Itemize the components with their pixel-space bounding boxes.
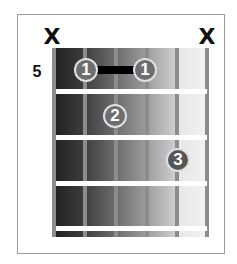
start-fret-label: 5 [33, 63, 42, 81]
finger-dot-3-string-2: 3 [166, 148, 190, 172]
mute-marker-string-1: X [199, 26, 216, 48]
barre-bar [96, 66, 136, 74]
mute-marker-string-6: X [44, 26, 61, 48]
finger-dot-1-string-2: 1 [133, 58, 157, 82]
fret-line-2 [56, 135, 207, 140]
fretboard-shading-light [176, 48, 207, 237]
finger-dot-1-string-5: 1 [74, 58, 98, 82]
string-6 [52, 48, 56, 237]
string-4 [114, 48, 118, 237]
fret-line-1 [56, 89, 207, 94]
finger-dot-2-string-4: 2 [103, 104, 127, 128]
fret-line-4 [56, 226, 207, 231]
string-2 [175, 48, 179, 237]
string-1 [205, 48, 209, 237]
fret-line-3 [56, 181, 207, 186]
